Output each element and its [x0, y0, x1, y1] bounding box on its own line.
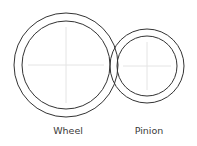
pinion-label: Pinion [135, 125, 164, 136]
wheel-gear: Wheel [14, 13, 118, 136]
gear-diagram: Wheel Pinion [0, 0, 197, 146]
wheel-label: Wheel [53, 125, 83, 136]
pinion-gear: Pinion [110, 29, 184, 136]
